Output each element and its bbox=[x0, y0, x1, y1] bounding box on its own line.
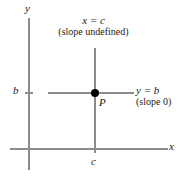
tick-label-c: c bbox=[91, 155, 96, 167]
horizontal-line-annotation: y = b (slope 0) bbox=[136, 84, 171, 108]
horizontal-line-slope-note: (slope 0) bbox=[136, 96, 171, 107]
x-axis-tick-c bbox=[94, 144, 96, 153]
y-axis-tick-b bbox=[25, 92, 33, 94]
vertical-line-slope-note: (slope undefined) bbox=[3, 26, 181, 37]
vertical-line-equation: x = c bbox=[3, 14, 181, 26]
horizontal-line-equation: y = b bbox=[136, 84, 171, 96]
tick-label-b: b bbox=[13, 84, 19, 96]
vertical-line-annotation: x = c (slope undefined) bbox=[0, 14, 181, 38]
x-axis-line bbox=[10, 148, 168, 150]
line-equations-figure: y x b c P x = c (slope undefined) y = b … bbox=[0, 0, 181, 176]
y-axis-label: y bbox=[25, 2, 30, 14]
x-axis-label: x bbox=[169, 140, 174, 152]
intersection-point-marker bbox=[91, 89, 99, 97]
point-label-p: P bbox=[99, 96, 106, 108]
